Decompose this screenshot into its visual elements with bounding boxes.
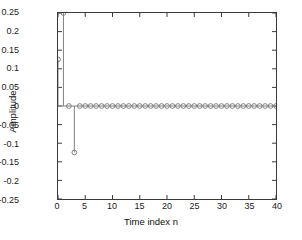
y-tick-label: -0.15 [0,158,19,167]
y-tick-label: -0.25 [0,196,19,205]
x-tick-label: 35 [244,202,254,211]
x-tick-label: 0 [54,202,59,211]
plot-area [57,12,277,200]
y-tick-label: 0.2 [6,26,19,35]
x-tick-label: 15 [134,202,144,211]
x-tick-label: 5 [82,202,87,211]
y-tick-label: -0.2 [3,177,19,186]
plot-canvas [58,13,276,199]
x-tick-label: 10 [107,202,117,211]
x-tick-label: 40 [272,202,282,211]
x-axis-title: Time index n [0,216,302,227]
x-tick-label: 25 [189,202,199,211]
x-tick-label: 30 [217,202,227,211]
y-tick-label: 0.15 [1,45,19,54]
stem-plot-figure: 0.250.20.150.10.050-0.05-0.1-0.15-0.2-0.… [0,0,302,240]
y-axis-title: Amplitude [7,67,18,157]
x-tick-label: 20 [162,202,172,211]
y-tick-label: 0.25 [1,8,19,17]
